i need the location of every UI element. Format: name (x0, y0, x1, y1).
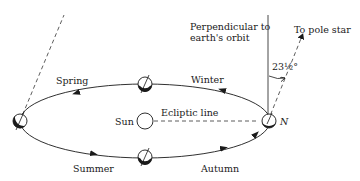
label-autumn: Autumn (200, 163, 239, 174)
angle-arc (269, 76, 285, 79)
orbit-arrow-spring (76, 90, 86, 93)
label-pole-star: To pole star (294, 24, 351, 35)
pole-axis-dashed (268, 36, 302, 121)
earth-bottom (138, 148, 152, 166)
earth-top (138, 75, 152, 93)
label-perpendicular-2: earth's orbit (190, 32, 250, 43)
label-spring: Spring (56, 75, 88, 86)
label-winter: Winter (191, 74, 224, 85)
label-sun: Sun (115, 116, 134, 127)
earth-left (13, 112, 27, 130)
sun-circle (137, 113, 153, 129)
label-north: N (279, 116, 289, 127)
earth-right (262, 113, 276, 128)
left-axis-dashed (20, 15, 64, 121)
orbit-diagram: Perpendicular to earth's orbit To pole s… (0, 0, 360, 181)
label-ecliptic: Ecliptic line (161, 107, 219, 118)
label-perpendicular-1: Perpendicular to (190, 21, 271, 32)
label-angle: 23½° (272, 61, 298, 72)
label-summer: Summer (73, 163, 114, 174)
